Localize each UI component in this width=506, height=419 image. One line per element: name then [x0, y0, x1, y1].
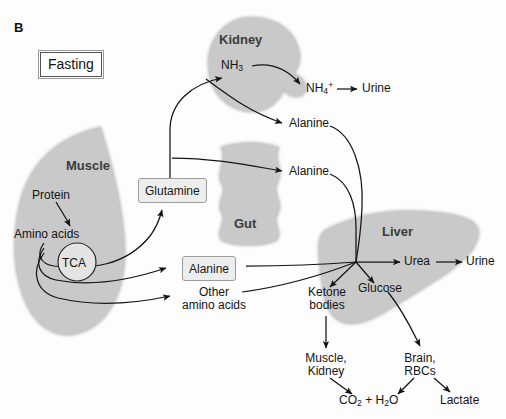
- node-muscle-kidney: Muscle, Kidney: [296, 352, 356, 378]
- node-amino-acids: Amino acids: [14, 228, 79, 241]
- node-other-amino-acids-line2: amino acids: [182, 299, 246, 312]
- fasting-state-label: Fasting: [48, 56, 94, 72]
- node-nh4-superscript: +: [328, 80, 333, 90]
- node-nh4-base: NH: [306, 81, 323, 95]
- node-ketone-bodies: Ketone bodies: [298, 286, 356, 312]
- node-alanine-kidney: Alanine: [289, 117, 329, 130]
- panel-letter: B: [14, 20, 23, 35]
- node-urine-liver: Urine: [466, 255, 495, 268]
- arrow-muscle-kidney-to-co2: [330, 378, 352, 394]
- node-glutamine: Glutamine: [145, 184, 200, 198]
- node-brain-rbcs: Brain, RBCs: [396, 352, 444, 378]
- node-other-amino-acids: Other amino acids: [182, 286, 246, 312]
- node-plus-h: + H: [362, 393, 384, 407]
- organ-label-liver: Liver: [382, 224, 413, 239]
- node-tca-label: TCA: [62, 256, 86, 270]
- fasting-state-box: Fasting: [40, 52, 102, 77]
- node-h2o-subscript: 2: [384, 398, 389, 408]
- glutamine-box: Glutamine: [138, 178, 207, 203]
- node-brain-rbcs-line2: RBCs: [396, 365, 444, 378]
- figure-canvas: B Fasting Kidney Muscle Gut Liver NH3 NH…: [0, 0, 506, 419]
- node-alanine-muscle: Alanine: [189, 262, 229, 276]
- alanine-box-muscle: Alanine: [182, 256, 236, 281]
- organ-label-gut: Gut: [234, 216, 256, 231]
- node-ketone-line2: bodies: [298, 299, 356, 312]
- node-urea: Urea: [404, 255, 430, 268]
- node-protein: Protein: [32, 189, 70, 202]
- node-co2-subscript: 2: [357, 398, 362, 408]
- node-nh3: NH3: [221, 59, 243, 73]
- node-urine-kidney: Urine: [362, 82, 391, 95]
- node-co2-h2o: CO2 + H2O: [339, 394, 398, 408]
- node-h2o-oxygen: O: [389, 393, 398, 407]
- arrow-brain-rbcs-to-co2: [398, 378, 414, 394]
- node-nh3-base: NH: [221, 58, 238, 72]
- arrow-brain-rbcs-to-lactate: [434, 378, 450, 392]
- organ-label-muscle: Muscle: [66, 158, 110, 173]
- node-muscle-kidney-line2: Kidney: [296, 365, 356, 378]
- node-nh3-subscript: 3: [238, 63, 243, 73]
- node-co2-base: CO: [339, 393, 357, 407]
- node-glucose: Glucose: [358, 282, 402, 295]
- organ-label-kidney: Kidney: [219, 32, 262, 47]
- arrow-glutamine-to-nh3: [170, 78, 222, 178]
- node-alanine-gut: Alanine: [289, 165, 329, 178]
- node-nh4: NH4+: [306, 82, 333, 96]
- node-lactate: Lactate: [440, 394, 479, 407]
